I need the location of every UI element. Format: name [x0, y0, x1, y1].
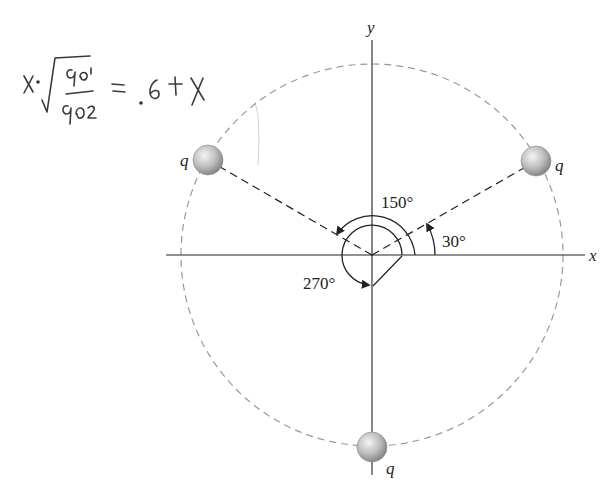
- handwritten-note: [24, 56, 204, 124]
- angle-270-chord: [373, 256, 402, 286]
- charge-upper-right: q: [521, 146, 564, 176]
- charge-upper-left: q: [180, 145, 223, 175]
- charge-label: q: [180, 151, 189, 170]
- charge-bottom: q: [357, 432, 395, 478]
- charge-sphere: [521, 146, 551, 176]
- pencil-mark: [255, 102, 259, 165]
- charge-sphere: [193, 145, 223, 175]
- angle-label-30: 30°: [442, 232, 466, 251]
- y-axis-label: y: [365, 18, 375, 37]
- angle-label-150: 150°: [381, 193, 413, 212]
- angle-label-270: 270°: [303, 274, 335, 293]
- angle-arc-30: [427, 224, 435, 255]
- charge-label: q: [386, 459, 395, 478]
- charge-sphere: [357, 432, 387, 462]
- x-axis-label: x: [588, 246, 597, 265]
- radius-line-150: [208, 160, 372, 255]
- charge-label: q: [555, 156, 564, 175]
- charge-diagram: x y 30° 150° 270° q q q: [0, 0, 616, 491]
